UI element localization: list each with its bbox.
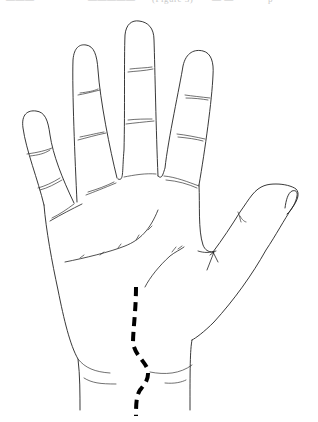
index-finger-crease-2 — [177, 134, 205, 141]
index-finger-crease-1 — [185, 95, 210, 100]
middle-finger-crease-2 — [126, 119, 154, 124]
ring-finger-crease-2 — [78, 132, 106, 140]
wrist-right-edge — [190, 340, 192, 410]
index-finger-outline — [158, 50, 213, 185]
middle-finger-crease-1 — [128, 67, 153, 72]
ring-finger-crease-1 — [78, 89, 100, 95]
little-finger-crease-1 — [27, 148, 52, 156]
middle-finger-outline — [118, 21, 158, 180]
little-finger-outline — [23, 111, 74, 205]
little-finger-base-crease — [52, 204, 74, 218]
thumb-base-crease — [198, 251, 218, 270]
hand-illustration — [0, 0, 318, 422]
wrist-crease-upper — [78, 359, 192, 374]
thumb-nail — [285, 191, 297, 214]
ring-finger-base-crease — [86, 182, 116, 195]
head-line-hatch — [80, 226, 152, 258]
heart-line — [50, 204, 82, 221]
thumb-outline — [192, 184, 298, 340]
thumb-inner-edge — [199, 185, 213, 252]
index-finger-base-crease — [164, 176, 199, 188]
middle-finger-base-crease — [124, 174, 156, 177]
highlighted-dashed-line — [133, 287, 148, 416]
ring-finger-outline — [73, 45, 117, 202]
life-line — [145, 247, 184, 287]
little-finger-crease-2 — [38, 178, 62, 190]
palm-left-edge — [44, 205, 80, 410]
head-line — [65, 210, 158, 262]
wrist-crease-lower — [84, 378, 186, 384]
